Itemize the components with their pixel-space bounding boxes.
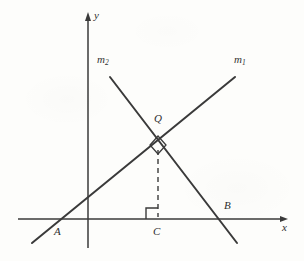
line-label-m1-subscript: 1 (242, 58, 246, 67)
x-axis-label: x (282, 222, 287, 233)
line-m1 (32, 77, 235, 243)
line-label-m2-base: m (97, 53, 105, 65)
geometry-figure: x y m2 m1 A B C Q (0, 0, 304, 261)
point-label-A: A (54, 226, 61, 237)
point-label-Q: Q (154, 113, 162, 124)
y-axis-label: y (94, 10, 99, 21)
line-label-m1: m1 (234, 54, 246, 67)
line-label-m2: m2 (97, 54, 109, 67)
point-label-C: C (153, 226, 161, 237)
y-axis (85, 12, 91, 248)
line-label-m1-base: m (234, 53, 242, 65)
right-angle-mark-at-C (146, 208, 158, 219)
point-label-B: B (224, 200, 231, 211)
line-label-m2-subscript: 2 (105, 58, 109, 67)
figure-canvas (0, 0, 304, 261)
y-axis-arrowhead (85, 12, 91, 21)
line-m2 (110, 77, 237, 243)
